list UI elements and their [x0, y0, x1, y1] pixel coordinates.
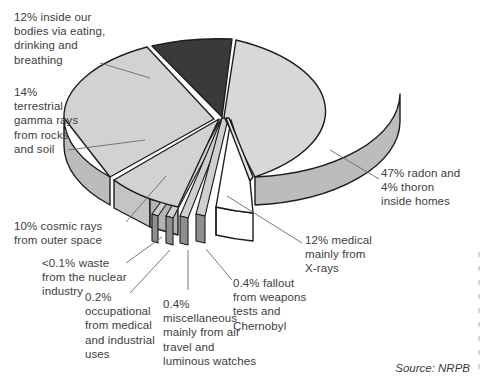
callout-medical: 12% medical mainly from X-rays [305, 233, 405, 276]
source-note: Source: NRPB [395, 362, 470, 374]
callout-internal: 12% inside our bodies via eating, drinki… [14, 10, 136, 67]
radiation-sources-pie-chart: .out { stroke:#1d1d1d; stroke-width:1.4;… [0, 0, 482, 384]
leader-fallout [206, 249, 232, 280]
callout-fallout: 0.4% fallout from weapons tests and Cher… [233, 276, 337, 333]
callout-occupational: 0.2% occupational from medical and indus… [85, 290, 167, 361]
callout-radon: 47% radon and 4% thoron inside homes [381, 166, 481, 209]
page-edge-artifact [478, 252, 480, 376]
callout-cosmic: 10% cosmic rays from outer space [14, 219, 142, 247]
callout-terrestrial: 14% terrestrial gamma rays from rocks an… [14, 85, 106, 156]
